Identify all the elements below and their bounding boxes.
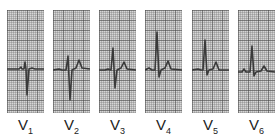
- ecg-strip-v2: [53, 10, 90, 113]
- lead-label-v2: V2: [53, 116, 90, 136]
- ecg-waveform: [192, 10, 229, 113]
- ecg-waveform: [145, 10, 182, 113]
- lead-number: 1: [28, 126, 33, 136]
- lead-number: 6: [259, 126, 264, 136]
- lead-number: 3: [120, 126, 125, 136]
- ecg-strip-v6: [238, 10, 275, 113]
- lead-letter: V: [18, 116, 28, 133]
- ecg-strip-v4: [145, 10, 182, 113]
- ecg-waveform: [7, 10, 44, 113]
- lead-letter: V: [249, 116, 259, 133]
- lead-label-v4: V4: [145, 116, 182, 136]
- lead-label-v6: V6: [238, 116, 275, 136]
- ecg-waveform: [99, 10, 136, 113]
- ecg-waveform: [238, 10, 275, 113]
- lead-number: 4: [166, 126, 171, 136]
- lead-letter: V: [156, 116, 166, 133]
- lead-label-v3: V3: [99, 116, 136, 136]
- lead-label-v1: V1: [7, 116, 44, 136]
- lead-letter: V: [64, 116, 74, 133]
- lead-number: 5: [213, 126, 218, 136]
- ecg-strip-v3: [99, 10, 136, 113]
- ecg-strip-v5: [192, 10, 229, 113]
- lead-label-v5: V5: [192, 116, 229, 136]
- lead-number: 2: [74, 126, 79, 136]
- ecg-waveform: [53, 10, 90, 113]
- lead-letter: V: [110, 116, 120, 133]
- ecg-strip-v1: [7, 10, 44, 113]
- lead-letter: V: [203, 116, 213, 133]
